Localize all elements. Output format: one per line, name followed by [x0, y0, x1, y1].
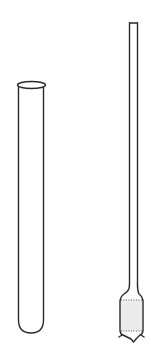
test-tube	[18, 82, 46, 334]
test-tube-lip	[18, 82, 46, 89]
test-tube-body	[19, 87, 44, 333]
glassware-diagram	[0, 0, 151, 357]
filter-tube-packing	[121, 300, 142, 331]
filter-tube	[119, 23, 144, 342]
filter-tube-stem	[130, 23, 138, 285]
